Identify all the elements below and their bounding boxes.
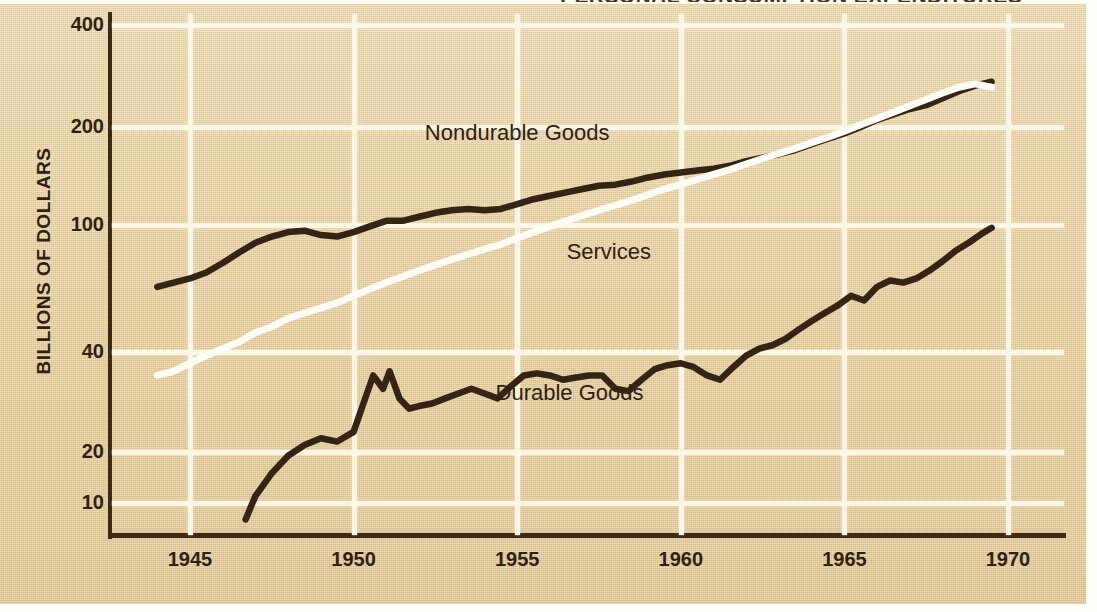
x-tick-1960: 1960 bbox=[636, 548, 726, 571]
y-tick-40: 40 bbox=[20, 341, 104, 361]
series-line-durable-goods bbox=[246, 228, 992, 520]
y-tick-100: 100 bbox=[20, 214, 104, 234]
series-curves bbox=[112, 14, 1064, 535]
bottom-margin bbox=[0, 604, 1097, 612]
chart-title: PERSONAL CONSUMPTION EXPENDITURES bbox=[560, 0, 1090, 2]
series-label-durable-goods: Durable Goods bbox=[496, 380, 644, 406]
y-tick-400: 400 bbox=[20, 14, 104, 34]
x-tick-1965: 1965 bbox=[799, 548, 889, 571]
chart-root: PERSONAL CONSUMPTION EXPENDITURES BILLIO… bbox=[0, 0, 1097, 612]
y-tick-20: 20 bbox=[20, 441, 104, 461]
x-tick-1945: 1945 bbox=[145, 548, 235, 571]
plot-area: Nondurable GoodsServicesDurable Goods bbox=[112, 14, 1064, 535]
y-tick-200: 200 bbox=[20, 116, 104, 136]
series-label-services: Services bbox=[567, 239, 651, 265]
y-tick-labels: 102040100200400 bbox=[12, 0, 104, 612]
x-tick-1955: 1955 bbox=[472, 548, 562, 571]
y-tick-10: 10 bbox=[20, 492, 104, 512]
x-tick-1970: 1970 bbox=[963, 548, 1053, 571]
series-label-nondurable-goods: Nondurable Goods bbox=[425, 120, 610, 146]
right-margin bbox=[1086, 0, 1097, 612]
x-tick-1950: 1950 bbox=[309, 548, 399, 571]
